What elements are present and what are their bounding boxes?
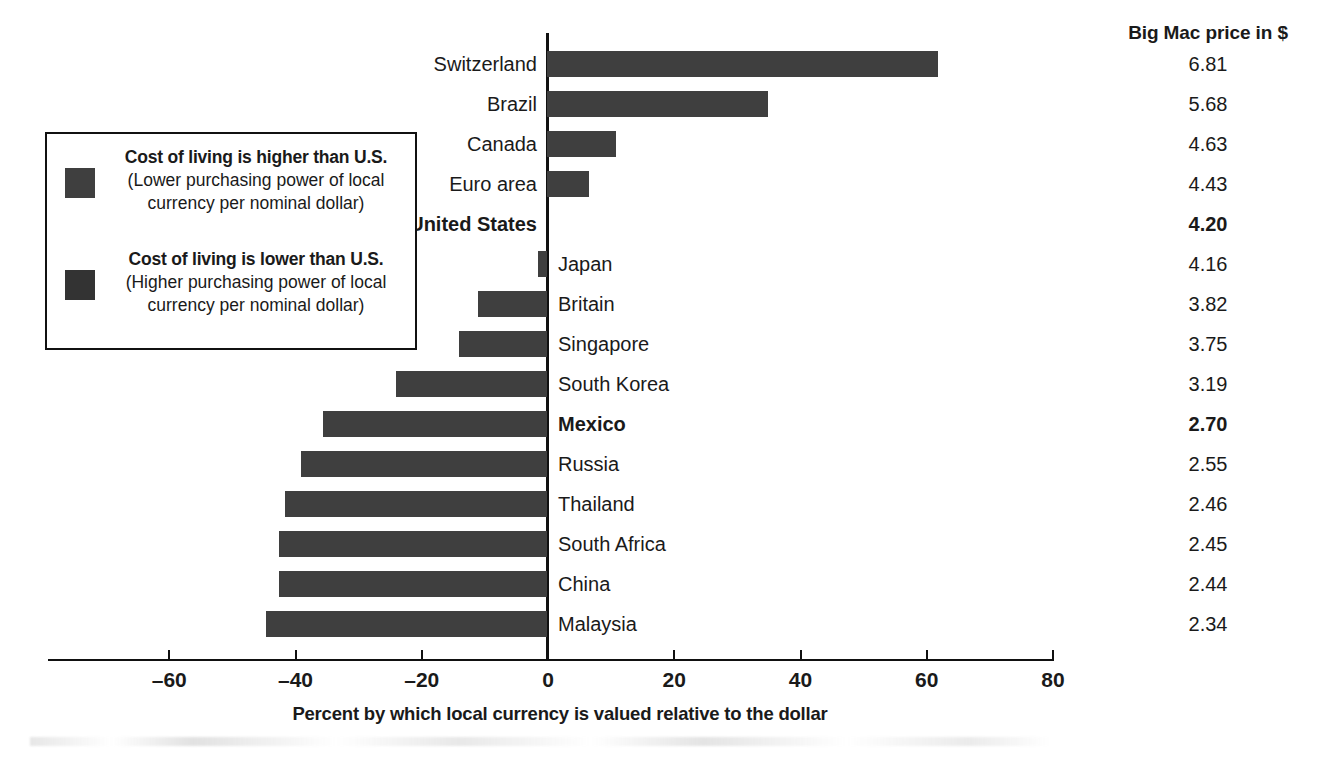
legend-title-higher: Cost of living is higher than U.S. [103,146,409,169]
bar [279,571,547,597]
bar [301,451,547,477]
country-label: Mexico [558,412,626,436]
axis-tick [800,650,802,660]
bar [279,531,547,557]
price-value: 2.46 [1108,492,1308,516]
country-label: Brazil [487,92,537,116]
country-label: Britain [558,292,615,316]
bar [538,251,547,277]
axis-tick-label: 60 [887,668,967,692]
legend-text-higher: Cost of living is higher than U.S. (Lowe… [103,146,409,215]
axis-tick [547,650,549,660]
axis-tick-label: 0 [508,668,588,692]
axis-tick-label: 80 [1013,668,1093,692]
table-row: Russia2.55 [0,444,1329,484]
price-value: 2.44 [1108,572,1308,596]
axis-tick [168,650,170,660]
bar [323,411,547,437]
axis-tick [421,650,423,660]
country-label: United States [409,212,537,236]
axis-tick-label: –60 [129,668,209,692]
price-value: 4.16 [1108,252,1308,276]
bar [547,51,938,77]
table-row: Brazil5.68 [0,84,1329,124]
price-column-header: Big Mac price in $ [1108,22,1308,44]
legend-swatch-higher-icon [65,168,95,198]
price-value: 4.63 [1108,132,1308,156]
price-value: 5.68 [1108,92,1308,116]
bar [478,291,547,317]
legend-sub-lower-line1: (Higher purchasing power of local [103,271,409,294]
country-label: South Africa [558,532,666,556]
price-value: 2.55 [1108,452,1308,476]
axis-tick-label: –20 [382,668,462,692]
legend-sub-higher-line1: (Lower purchasing power of local [103,169,409,192]
country-label: Thailand [558,492,635,516]
x-axis-line [48,659,1054,661]
country-label: China [558,572,610,596]
price-value: 3.82 [1108,292,1308,316]
price-value: 2.70 [1108,412,1308,436]
table-row: Switzerland6.81 [0,44,1329,84]
price-value: 4.43 [1108,172,1308,196]
axis-tick-label: 40 [761,668,841,692]
x-axis-title: Percent by which local currency is value… [0,703,1120,725]
axis-tick [1052,650,1054,660]
country-label: Euro area [449,172,537,196]
country-label: Canada [467,132,537,156]
axis-tick [295,650,297,660]
table-row: Mexico2.70 [0,404,1329,444]
legend-text-lower: Cost of living is lower than U.S. (Highe… [103,248,409,317]
axis-tick [926,650,928,660]
bar [285,491,547,517]
legend-sub-lower-line2: currency per nominal dollar) [103,294,409,317]
country-label: Malaysia [558,612,637,636]
bar [547,131,616,157]
country-label: Russia [558,452,619,476]
table-row: Thailand2.46 [0,484,1329,524]
price-value: 4.20 [1108,212,1308,236]
axis-tick [673,650,675,660]
bar [547,91,768,117]
price-value: 6.81 [1108,52,1308,76]
bar [396,371,548,397]
axis-tick-label: –40 [256,668,336,692]
price-value: 2.34 [1108,612,1308,636]
legend-title-lower: Cost of living is lower than U.S. [103,248,409,271]
axis-tick-label: 20 [634,668,714,692]
price-value: 3.75 [1108,332,1308,356]
legend-swatch-lower-icon [65,270,95,300]
legend-sub-higher-line2: currency per nominal dollar) [103,192,409,215]
country-label: Switzerland [434,52,537,76]
price-value: 3.19 [1108,372,1308,396]
bar [266,611,547,637]
table-row: Malaysia2.34 [0,604,1329,644]
bar [547,171,589,197]
table-row: China2.44 [0,564,1329,604]
big-mac-index-chart: Big Mac price in $ Switzerland6.81Brazil… [0,0,1329,757]
table-row: South Africa2.45 [0,524,1329,564]
country-label: South Korea [558,372,669,396]
country-label: Singapore [558,332,649,356]
chart-legend: Cost of living is higher than U.S. (Lowe… [45,132,417,350]
bar [459,331,547,357]
table-row: South Korea3.19 [0,364,1329,404]
price-value: 2.45 [1108,532,1308,556]
scan-artifact [30,737,1050,746]
country-label: Japan [558,252,613,276]
